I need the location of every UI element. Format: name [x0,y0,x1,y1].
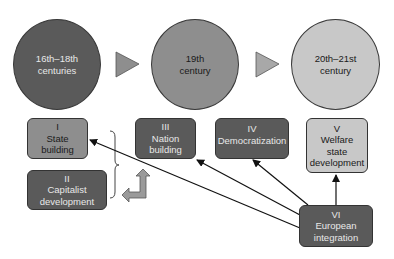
process-label-line2: integration [314,232,358,244]
period-label-line1: 19th [186,53,205,65]
period-label-line2: century [179,65,210,77]
period-label-line2: centuries [38,65,77,77]
process-label-line1: State [46,133,68,145]
timeline-arrow-2-icon [256,52,279,77]
process-label-line1: European [315,220,356,232]
process-label-line1: Democratization [218,135,287,147]
process-label-line2: development [40,196,94,208]
period-circle-16th-18th: 16th–18th centuries [13,19,101,110]
process-numeral: V [334,123,340,135]
period-label-line1: 20th–21st [315,53,357,65]
process-numeral: IV [248,123,257,135]
arrow-vi-to-iv [253,160,308,205]
curly-brace-icon [110,131,119,198]
process-label-line1: Capitalist [47,184,86,196]
period-circle-19th: 19th century [151,19,239,110]
timeline-arrow-1-icon [116,52,139,77]
process-box-welfare-state-development: V Welfare state development [306,118,368,173]
process-box-european-integration: VI European integration [299,205,373,247]
process-numeral: I [56,121,59,133]
bent-block-arrow-icon [122,169,150,202]
period-circle-20th-21st: 20th–21st century [291,19,380,110]
process-numeral: VI [332,209,341,221]
process-box-state-building: I State building [27,118,88,159]
process-box-capitalist-development: II Capitalist development [27,170,107,210]
process-label-line2: state [327,146,348,158]
period-label-line2: century [320,65,351,77]
process-label-line2: building [41,144,74,156]
process-label-line3: development [310,157,364,169]
process-numeral: III [162,121,170,133]
process-label-line2: building [149,144,182,156]
process-label-line1: Welfare [321,134,354,146]
process-box-nation-building: III Nation building [135,118,196,159]
process-numeral: II [64,173,69,185]
process-box-democratization: IV Democratization [215,118,289,159]
process-label-line1: Nation [152,133,179,145]
period-label-line1: 16th–18th [36,53,78,65]
